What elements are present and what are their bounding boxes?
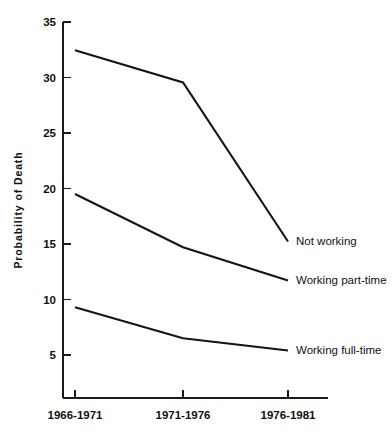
- x-tick-label-1: 1966-1971: [48, 409, 104, 421]
- y-tick-label-20: 20: [43, 183, 56, 195]
- series-line-working-full-time: [75, 307, 288, 350]
- y-tick-label-15: 15: [43, 238, 56, 250]
- chart-container: 35 30 25 20 15 10 5 1966-1971 1971-1976 …: [0, 0, 392, 439]
- y-tick-label-10: 10: [43, 294, 56, 306]
- series-line-working-part-time: [75, 194, 288, 281]
- series-label-working-part-time: Working part-time: [296, 274, 387, 286]
- series-line-not-working: [75, 50, 288, 241]
- x-tick-label-2: 1971-1976: [156, 409, 211, 421]
- y-tick-label-25: 25: [43, 127, 56, 139]
- line-chart: 35 30 25 20 15 10 5 1966-1971 1971-1976 …: [0, 0, 392, 439]
- y-tick-label-30: 30: [43, 72, 56, 84]
- x-tick-label-3: 1976-1981: [261, 409, 317, 421]
- y-axis-title: Probability of Death: [12, 151, 24, 268]
- series-label-not-working: Not working: [296, 235, 357, 247]
- series-label-working-full-time: Working full-time: [296, 344, 381, 356]
- y-tick-label-5: 5: [50, 349, 57, 361]
- y-tick-label-35: 35: [43, 16, 56, 28]
